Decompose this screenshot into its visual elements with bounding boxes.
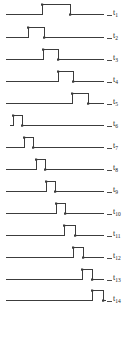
waveform-label-t9: t9	[113, 186, 118, 194]
label-leader-t9	[107, 192, 112, 193]
waveform-t6	[0, 114, 106, 129]
label-subscript: 8	[115, 167, 118, 173]
label-subscript: 10	[115, 211, 121, 217]
pulse-path	[6, 270, 104, 280]
edge-marker	[72, 81, 74, 83]
waveform-label-t5: t5	[113, 98, 118, 106]
edge-marker	[91, 279, 93, 281]
label-subscript: 6	[115, 123, 118, 129]
waveform-label-t8: t8	[113, 164, 118, 172]
waveform-label-t13: t13	[113, 274, 121, 282]
waveform-t10	[0, 202, 106, 217]
edge-marker	[55, 203, 57, 205]
edge-marker	[35, 159, 37, 161]
waveform-t1	[0, 3, 106, 18]
label-subscript: 9	[115, 189, 118, 195]
waveform-label-t11: t11	[113, 230, 121, 238]
pulse-path	[6, 138, 104, 148]
label-subscript: 2	[115, 35, 118, 41]
pulse-path	[6, 50, 104, 60]
label-leader-t4	[107, 82, 112, 83]
edge-marker	[12, 115, 14, 117]
pulse-path	[6, 204, 104, 214]
waveform-label-t14: t14	[113, 295, 121, 303]
waveform-label-t3: t3	[113, 54, 118, 62]
pulse-path	[10, 116, 104, 126]
edge-marker	[74, 235, 76, 237]
waveform-t3	[0, 48, 106, 63]
label-leader-t1	[107, 15, 112, 16]
edge-marker	[82, 257, 84, 259]
waveform-label-t6: t6	[113, 120, 118, 128]
edge-marker	[91, 290, 93, 292]
waveform-t2	[0, 26, 106, 41]
label-leader-t7	[107, 148, 112, 149]
waveform-t13	[0, 268, 106, 283]
label-leader-t10	[107, 214, 112, 215]
label-leader-t5	[107, 104, 112, 105]
label-subscript: 3	[115, 57, 118, 63]
label-subscript: 13	[115, 277, 121, 283]
edge-marker	[72, 247, 74, 249]
label-leader-t3	[107, 60, 112, 61]
label-subscript: 1	[115, 12, 118, 18]
label-subscript: 5	[115, 101, 118, 107]
label-subscript: 12	[115, 255, 121, 261]
label-leader-t6	[107, 126, 112, 127]
edge-marker	[27, 27, 29, 29]
pulse-path	[6, 248, 104, 258]
waveform-label-t10: t10	[113, 208, 121, 216]
waveform-label-t2: t2	[113, 32, 118, 40]
waveform-t8	[0, 158, 106, 173]
waveform-label-t7: t7	[113, 142, 118, 150]
edge-marker	[57, 71, 59, 73]
label-subscript: 7	[115, 145, 118, 151]
waveform-t7	[0, 136, 106, 151]
pulse-path	[6, 226, 104, 236]
edge-marker	[42, 49, 44, 51]
waveform-label-t12: t12	[113, 252, 121, 260]
waveform-label-t4: t4	[113, 76, 118, 84]
edge-marker	[87, 103, 89, 105]
label-subscript: 4	[115, 79, 118, 85]
pulse-path	[6, 28, 104, 38]
edge-marker	[21, 125, 23, 127]
pulse-path	[6, 291, 106, 301]
edge-marker	[69, 14, 71, 16]
edge-marker	[71, 93, 73, 95]
label-leader-t14	[107, 301, 112, 302]
timing-diagram-figure: t1t2t3t4t5t6t7t8t9t10t11t12t13t14	[0, 0, 128, 338]
label-subscript: 11	[115, 233, 120, 239]
edge-marker	[45, 181, 47, 183]
label-leader-t2	[107, 38, 112, 39]
pulse-path	[6, 5, 104, 15]
edge-marker	[64, 213, 66, 215]
edge-marker	[54, 191, 56, 193]
pulse-path	[6, 182, 104, 192]
label-leader-t11	[107, 236, 112, 237]
edge-marker	[63, 225, 65, 227]
edge-marker	[41, 4, 43, 6]
waveform-t5	[0, 92, 106, 107]
edge-marker	[81, 269, 83, 271]
pulse-path	[6, 160, 104, 170]
pulse-path	[6, 94, 104, 104]
edge-marker	[57, 59, 59, 61]
waveform-t9	[0, 180, 106, 195]
waveform-t14	[0, 289, 106, 304]
pulse-path	[6, 72, 104, 82]
edge-marker	[102, 300, 104, 302]
edge-marker	[44, 169, 46, 171]
edge-marker	[32, 147, 34, 149]
label-leader-t13	[107, 280, 112, 281]
edge-marker	[43, 37, 45, 39]
waveform-t12	[0, 246, 106, 261]
label-leader-t8	[107, 170, 112, 171]
label-subscript: 14	[115, 298, 121, 304]
waveform-t4	[0, 70, 106, 85]
waveform-t11	[0, 224, 106, 239]
edge-marker	[23, 137, 25, 139]
label-leader-t12	[107, 258, 112, 259]
waveform-label-t1: t1	[113, 9, 118, 17]
